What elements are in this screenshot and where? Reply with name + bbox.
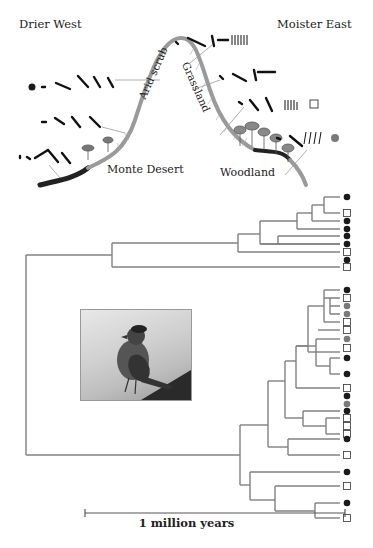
sparrow-illustration [81, 310, 191, 400]
phylogenetic-tree [0, 0, 373, 548]
scale-bar-label: 1 million years [0, 516, 373, 530]
bird-photo [80, 309, 192, 401]
tip-markers [344, 194, 351, 522]
